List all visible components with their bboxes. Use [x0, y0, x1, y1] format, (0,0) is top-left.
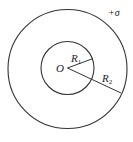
center-label: O — [56, 62, 64, 74]
inner-radius-label: R1 — [70, 52, 82, 66]
outer-circle — [8, 10, 127, 129]
outer-radius-label: R2 — [101, 72, 113, 86]
charge-density-label: +σ — [108, 7, 121, 18]
inner-radius-subscript: 1 — [78, 58, 82, 66]
annulus-diagram: O R1 R2 +σ — [0, 0, 133, 142]
outer-radius-subscript: 2 — [109, 78, 113, 86]
